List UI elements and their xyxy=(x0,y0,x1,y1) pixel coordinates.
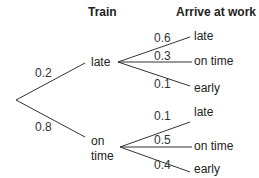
node-train-ontime-line2: time xyxy=(91,150,114,163)
prob-late-late: 0.6 xyxy=(154,32,171,45)
prob-late-ontime: 0.3 xyxy=(154,50,171,63)
prob-train-ontime: 0.8 xyxy=(35,121,52,134)
node-late-ontime: on time xyxy=(194,55,233,68)
prob-train-late: 0.2 xyxy=(35,67,52,80)
prob-ontime-ontime: 0.5 xyxy=(154,134,171,147)
header-arrive-at-work: Arrive at work xyxy=(176,5,256,19)
node-late-late: late xyxy=(194,30,213,43)
node-ontime-late: late xyxy=(194,106,213,119)
node-train-ontime: on time xyxy=(91,135,114,163)
header-train: Train xyxy=(88,5,117,19)
prob-ontime-late: 0.1 xyxy=(154,110,171,123)
prob-late-early: 0.1 xyxy=(154,78,171,91)
node-train-late: late xyxy=(91,56,110,69)
node-ontime-ontime: on time xyxy=(194,140,233,153)
node-late-early: early xyxy=(194,82,220,95)
node-train-ontime-line1: on xyxy=(91,135,114,148)
node-ontime-early: early xyxy=(194,163,220,176)
prob-ontime-early: 0.4 xyxy=(154,159,171,172)
